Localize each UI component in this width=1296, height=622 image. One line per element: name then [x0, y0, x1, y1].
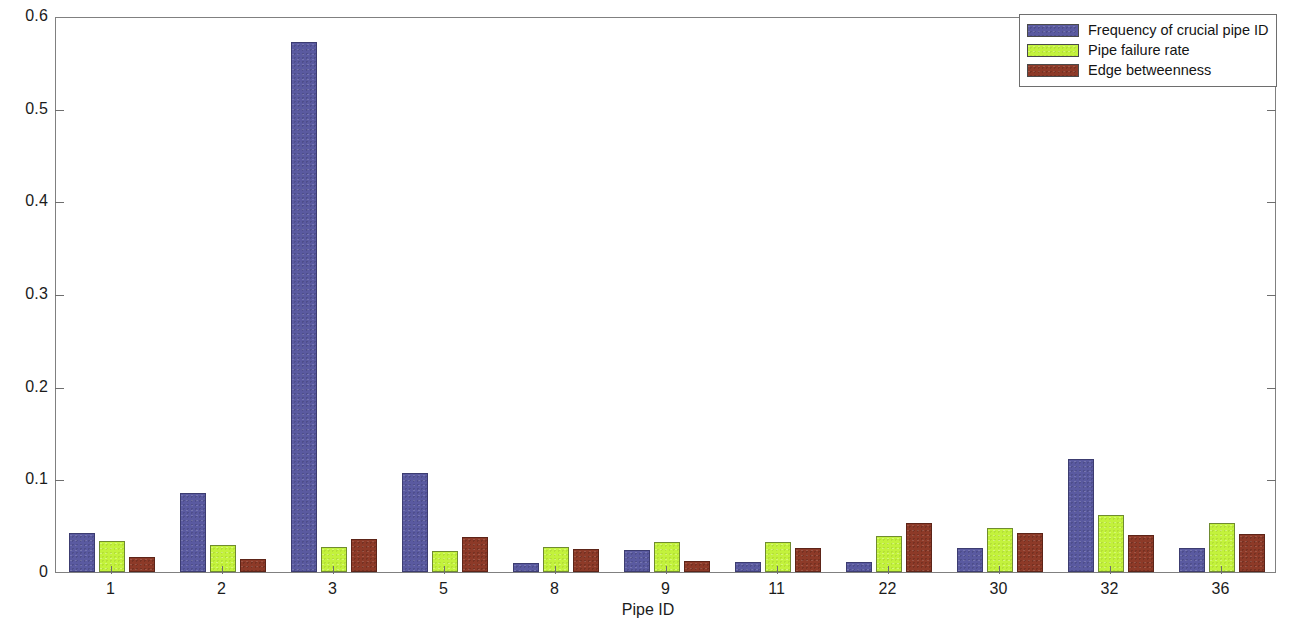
- x-tick-label-3: 3: [328, 580, 337, 598]
- x-axis-title: Pipe ID: [0, 601, 1296, 619]
- bar-22-series-2: [906, 523, 932, 572]
- x-tick-label-8: 8: [550, 580, 559, 598]
- legend-label-2: Edge betweenness: [1088, 63, 1211, 78]
- bar-9-series-1: [654, 542, 680, 572]
- x-tick-mark-9: [666, 566, 667, 574]
- y-tick-mark-4: [55, 202, 64, 203]
- x-tick-label-22: 22: [879, 580, 897, 598]
- x-tick-mark-22: [888, 566, 889, 574]
- bar-36-series-1: [1209, 523, 1235, 572]
- bar-8-series-1: [543, 547, 569, 572]
- bar-2-series-0: [180, 493, 206, 572]
- y-tick-mark-right-2: [1267, 388, 1276, 389]
- bar-30-series-0: [957, 548, 983, 572]
- x-tick-mark-36: [1221, 566, 1222, 574]
- legend-row-0: Frequency of crucial pipe ID: [1027, 20, 1269, 40]
- bar-3-series-1: [321, 547, 347, 572]
- bar-3-series-0: [291, 42, 317, 572]
- y-tick-label-0: 0: [0, 563, 48, 581]
- bar-30-series-2: [1017, 533, 1043, 572]
- y-tick-mark-3: [55, 295, 64, 296]
- y-tick-label-2: 0.2: [0, 378, 48, 396]
- y-tick-mark-right-3: [1267, 295, 1276, 296]
- bars-layer: [56, 18, 1275, 572]
- bar-1-series-2: [129, 557, 155, 572]
- bar-22-series-0: [846, 562, 872, 572]
- y-tick-label-1: 0.1: [0, 470, 48, 488]
- bar-30-series-1: [987, 528, 1013, 572]
- x-tick-label-9: 9: [661, 580, 670, 598]
- legend-row-1: Pipe failure rate: [1027, 40, 1269, 60]
- x-tick-label-36: 36: [1212, 580, 1230, 598]
- legend-swatch-icon-0: [1027, 24, 1079, 37]
- x-tick-mark-2: [222, 566, 223, 574]
- bar-2-series-1: [210, 545, 236, 572]
- x-tick-label-30: 30: [990, 580, 1008, 598]
- plot-area: [55, 17, 1276, 573]
- bar-8-series-2: [573, 549, 599, 572]
- bar-9-series-0: [624, 550, 650, 572]
- x-tick-mark-8: [555, 566, 556, 574]
- x-tick-label-5: 5: [439, 580, 448, 598]
- x-tick-label-32: 32: [1101, 580, 1119, 598]
- chart-legend: Frequency of crucial pipe IDPipe failure…: [1019, 14, 1277, 87]
- legend-row-2: Edge betweenness: [1027, 60, 1269, 80]
- bar-36-series-2: [1239, 534, 1265, 572]
- y-tick-mark-1: [55, 480, 64, 481]
- y-tick-label-3: 0.3: [0, 285, 48, 303]
- bar-3-series-2: [351, 539, 377, 572]
- bar-32-series-0: [1068, 459, 1094, 572]
- y-tick-label-6: 0.6: [0, 7, 48, 25]
- x-tick-mark-30: [999, 566, 1000, 574]
- bar-11-series-0: [735, 562, 761, 572]
- x-tick-mark-1: [111, 566, 112, 574]
- x-tick-mark-3: [333, 566, 334, 574]
- bar-11-series-1: [765, 542, 791, 572]
- y-tick-label-4: 0.4: [0, 192, 48, 210]
- y-tick-mark-right-4: [1267, 202, 1276, 203]
- legend-label-0: Frequency of crucial pipe ID: [1088, 23, 1269, 38]
- x-tick-label-1: 1: [106, 580, 115, 598]
- chart-figure: 00.10.20.30.40.50.6 1235891122303236 Pip…: [0, 0, 1296, 622]
- legend-swatch-icon-2: [1027, 64, 1079, 77]
- bar-5-series-0: [402, 473, 428, 572]
- bar-11-series-2: [795, 548, 821, 572]
- y-tick-mark-right-1: [1267, 480, 1276, 481]
- x-tick-mark-32: [1110, 566, 1111, 574]
- bar-32-series-2: [1128, 535, 1154, 572]
- y-tick-label-5: 0.5: [0, 100, 48, 118]
- bar-8-series-0: [513, 563, 539, 572]
- x-tick-mark-5: [444, 566, 445, 574]
- y-tick-mark-2: [55, 388, 64, 389]
- bar-5-series-1: [432, 551, 458, 572]
- bar-1-series-0: [69, 533, 95, 572]
- bar-1-series-1: [99, 541, 125, 573]
- y-tick-mark-right-5: [1267, 110, 1276, 111]
- bar-36-series-0: [1179, 548, 1205, 572]
- legend-swatch-icon-1: [1027, 44, 1079, 57]
- bar-5-series-2: [462, 537, 488, 572]
- bar-22-series-1: [876, 536, 902, 572]
- legend-label-1: Pipe failure rate: [1088, 43, 1190, 58]
- x-tick-label-11: 11: [768, 580, 785, 598]
- y-tick-mark-5: [55, 110, 64, 111]
- x-tick-mark-11: [777, 566, 778, 574]
- bar-32-series-1: [1098, 515, 1124, 572]
- x-tick-label-2: 2: [217, 580, 226, 598]
- bar-2-series-2: [240, 559, 266, 572]
- bar-9-series-2: [684, 561, 710, 572]
